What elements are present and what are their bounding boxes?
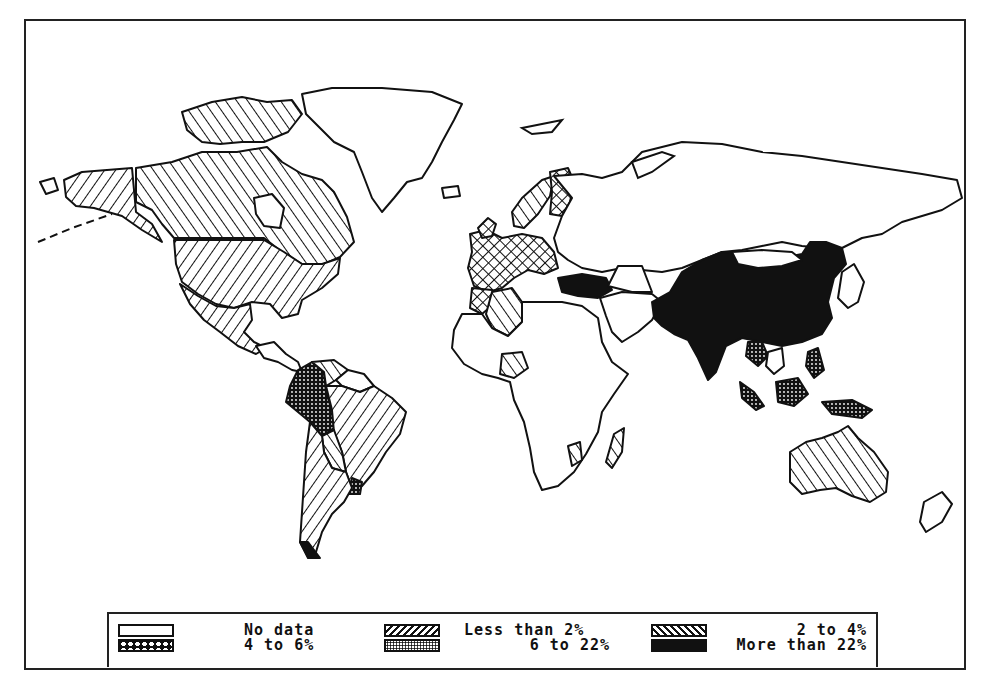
region-shape-4to6 (468, 230, 558, 292)
legend-label-4to6: 4 to 6% (244, 639, 314, 652)
map-frame (24, 19, 966, 670)
legend-label-6to22: 6 to 22% (530, 639, 610, 652)
region-shape-6to22 (822, 400, 872, 418)
region-shape-lt2 (182, 97, 302, 144)
region-shape-nodata (40, 178, 58, 194)
region-shape-nodata (920, 492, 952, 532)
region-shape-6to22 (740, 382, 764, 410)
legend-swatch-6to22 (384, 639, 440, 652)
legend-swatch-lt2 (384, 624, 440, 637)
region-shape-lt2 (512, 176, 554, 228)
country-shapes (40, 88, 962, 558)
region-shape-6to22 (746, 342, 768, 366)
region-shape-nodata (442, 186, 460, 198)
legend: No dataLess than 2%2 to 4%4 to 6%6 to 22… (107, 612, 878, 667)
legend-swatch-nodata (118, 624, 174, 637)
region-shape-nodata (838, 264, 864, 308)
region-shape-nodata (600, 292, 662, 342)
region-shape-4to6 (478, 218, 496, 238)
region-shape-6to22 (806, 348, 824, 378)
region-shape-nodata (766, 348, 784, 374)
legend-swatch-gt22 (651, 639, 707, 652)
coastline (522, 120, 562, 134)
legend-label-gt22: More than 22% (737, 639, 867, 652)
region-shape-lt2 (790, 426, 888, 502)
legend-swatch-2to4 (651, 624, 707, 637)
region-shape-6to22 (776, 378, 808, 406)
region-shape-nodata (256, 342, 302, 372)
legend-swatch-4to6 (118, 639, 174, 652)
region-shape-nodata (452, 302, 628, 490)
region-shape-lt2 (606, 428, 624, 468)
world-map (26, 21, 968, 672)
coastline (38, 214, 112, 242)
region-shape-gt22 (558, 274, 612, 298)
